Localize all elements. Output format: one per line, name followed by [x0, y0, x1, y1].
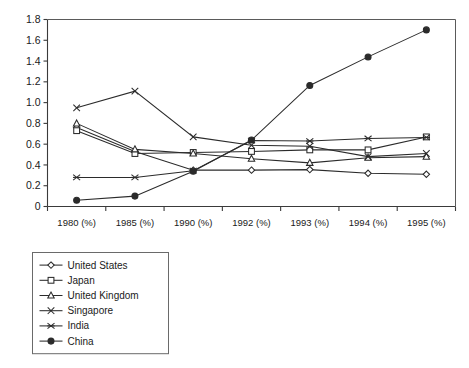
data-point [306, 138, 313, 143]
data-point [365, 170, 371, 176]
series-china [74, 27, 430, 203]
y-tick-label: 0.2 [26, 179, 41, 191]
legend-label: China [68, 336, 95, 347]
y-tick-label: 1.0 [26, 96, 41, 108]
chart-canvas: 00.20.40.60.81.01.21.41.61.8 1980 (%)198… [0, 0, 469, 368]
data-point [73, 175, 80, 180]
data-point [74, 197, 80, 203]
y-tick-label: 1.2 [26, 75, 41, 87]
data-point [73, 105, 80, 112]
data-point [132, 88, 139, 95]
chart-legend: United StatesJapanUnited KingdomSingapor… [33, 253, 169, 354]
y-axis: 00.20.40.60.81.01.21.41.61.8 [26, 13, 48, 212]
data-point [423, 171, 429, 177]
data-point [423, 27, 429, 33]
y-tick-label: 1.4 [26, 55, 41, 67]
data-series-group [73, 27, 430, 203]
legend-label: United Kingdom [68, 290, 139, 301]
y-tick-label: 0.6 [26, 138, 41, 150]
x-tick-label: 1980 (%) [57, 217, 96, 228]
x-tick-label: 1990 (%) [174, 217, 213, 228]
plot-area-frame [48, 20, 456, 207]
y-tick-label: 1.8 [26, 13, 41, 25]
data-point [249, 149, 255, 155]
data-point [365, 54, 371, 60]
data-point [190, 168, 196, 174]
y-tick-label: 1.6 [26, 34, 41, 46]
legend-marker-square-open [48, 277, 54, 283]
x-tick-label: 1992 (%) [232, 217, 271, 228]
data-point [73, 120, 79, 126]
data-point [364, 136, 371, 141]
y-tick-label: 0.4 [26, 159, 41, 171]
y-tick-label: 0.8 [26, 117, 41, 129]
x-tick-label: 1994 (%) [349, 217, 388, 228]
x-axis: 1980 (%)1985 (%)1990 (%)1992 (%)1993 (%)… [48, 207, 456, 228]
data-point [249, 137, 255, 143]
legend-label: Singapore [68, 305, 114, 316]
legend-label: Japan [68, 275, 95, 286]
data-point [307, 82, 313, 88]
data-point [74, 128, 80, 134]
data-point [365, 147, 371, 153]
legend-label: United States [68, 260, 128, 271]
data-point [132, 193, 138, 199]
line-chart: 00.20.40.60.81.01.21.41.61.8 1980 (%)198… [0, 0, 469, 368]
y-tick-label: 0 [35, 200, 41, 212]
data-point [307, 166, 313, 172]
legend-label: India [68, 320, 90, 331]
data-point [131, 175, 138, 180]
x-tick-label: 1985 (%) [116, 217, 155, 228]
data-point [248, 167, 254, 173]
legend-marker-circle-solid [48, 338, 54, 344]
x-tick-label: 1995 (%) [407, 217, 446, 228]
x-tick-label: 1993 (%) [291, 217, 330, 228]
